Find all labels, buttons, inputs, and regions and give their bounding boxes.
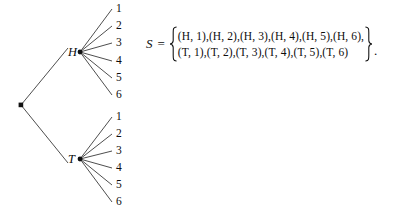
edge-root-to-h: [21, 48, 68, 105]
t-node-dot: [78, 157, 83, 162]
edge-t-to-4: [80, 159, 112, 168]
probability-tree-figure: H T 1 2 3 4 5 6 1 2 3 4 5 6 S = (H, 1),(…: [0, 0, 407, 211]
tree-node-label-t: T: [68, 153, 75, 166]
equals-sign: =: [158, 36, 165, 52]
sample-space-variable: S: [146, 36, 153, 52]
edge-root-to-t: [21, 105, 68, 163]
edge-h-to-3: [80, 43, 112, 52]
edge-h-to-6: [80, 52, 112, 95]
sentence-period: .: [374, 43, 377, 62]
sample-space-row-tails: (T, 1),(T, 2),(T, 3),(T, 4),(T, 5),(T, 6…: [178, 44, 364, 60]
leaf-label-h-5: 5: [116, 72, 122, 84]
close-brace-icon: [365, 26, 373, 62]
edge-h-to-4: [80, 52, 112, 61]
leaf-label-h-4: 4: [116, 55, 122, 67]
leaf-label-t-3: 3: [116, 145, 122, 157]
open-brace-icon: [169, 26, 177, 62]
leaf-label-h-3: 3: [116, 37, 122, 49]
leaf-label-h-2: 2: [116, 20, 122, 32]
leaf-label-t-4: 4: [116, 162, 122, 174]
leaf-label-t-1: 1: [116, 111, 122, 123]
leaf-label-t-6: 6: [116, 196, 122, 208]
leaf-label-t-5: 5: [116, 179, 122, 191]
edge-t-to-6: [80, 159, 112, 202]
sample-space-expression: S = (H, 1),(H, 2),(H, 3),(H, 4),(H, 5),(…: [146, 26, 377, 62]
tree-node-label-h: H: [68, 46, 77, 59]
leaf-label-h-6: 6: [116, 89, 122, 101]
root-node-dot: [19, 103, 24, 108]
sample-space-rows: (H, 1),(H, 2),(H, 3),(H, 4),(H, 5),(H, 6…: [177, 28, 365, 60]
h-node-dot: [78, 50, 83, 55]
edge-h-to-1: [80, 9, 112, 52]
sample-space-row-heads: (H, 1),(H, 2),(H, 3),(H, 4),(H, 5),(H, 6…: [178, 28, 364, 44]
leaf-label-h-1: 1: [116, 3, 122, 15]
leaf-label-t-2: 2: [116, 128, 122, 140]
